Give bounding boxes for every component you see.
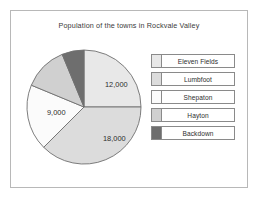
legend-item-eleven-fields[interactable]: Eleven Fields [151,54,235,68]
legend-item-lumbfoot[interactable]: Lumbfoot [151,72,235,86]
legend-swatch-icon [151,72,162,86]
legend-swatch-icon [151,126,162,140]
legend-label-box: Backdown [162,126,235,140]
legend-label: Lumbfoot [184,76,212,83]
legend-label: Backdown [183,130,214,137]
chart-card: Population of the towns in Rockvale Vall… [10,10,248,188]
pie-svg: 12,00018,0009,000 [23,39,145,175]
pie-value-label: 9,000 [47,108,66,117]
legend-swatch-icon [151,90,162,104]
legend-swatch-icon [151,108,162,122]
legend-item-backdown[interactable]: Backdown [151,126,235,140]
pie-slice-eleven-fields[interactable] [84,50,141,107]
pie-value-label: 18,000 [103,134,126,143]
legend-label-box: Lumbfoot [162,72,235,86]
legend-label-box: Eleven Fields [162,54,235,68]
legend-item-hayton[interactable]: Hayton [151,108,235,122]
pie-slice-group [27,50,141,164]
legend-label: Hayton [187,112,208,119]
legend-label-box: Shepaton [162,90,235,104]
legend: Eleven FieldsLumbfootShepatonHaytonBackd… [151,54,235,140]
pie-chart: 12,00018,0009,000 [23,39,145,175]
legend-item-shepaton[interactable]: Shepaton [151,90,235,104]
legend-label: Eleven Fields [178,58,218,65]
pie-value-label: 12,000 [105,80,128,89]
legend-swatch-icon [151,54,162,68]
legend-label: Shepaton [184,94,213,101]
legend-label-box: Hayton [162,108,235,122]
chart-title: Population of the towns in Rockvale Vall… [11,21,247,30]
